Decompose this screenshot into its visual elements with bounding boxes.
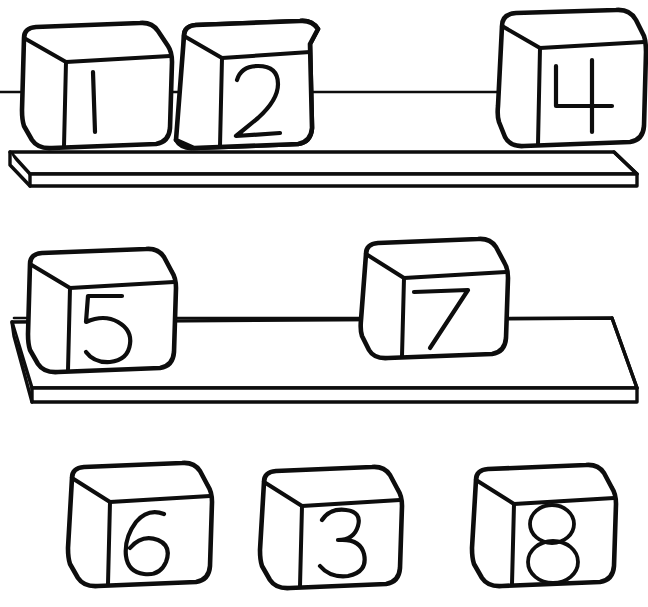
cube-six-vertical-edge	[108, 502, 110, 584]
cube-one[interactable]	[22, 23, 172, 148]
cube-three-vertical-edge	[300, 506, 302, 586]
cube-two[interactable]	[176, 21, 318, 148]
cube-four-vertical-edge	[538, 48, 540, 144]
cube-seven[interactable]	[361, 239, 508, 358]
cube-five-body	[28, 249, 176, 372]
shelf-top-surface	[10, 152, 637, 174]
cube-six[interactable]	[68, 463, 212, 586]
cube-two-vertical-edge	[220, 58, 222, 146]
cube-four-body	[498, 10, 646, 146]
diagram-svg	[0, 0, 648, 607]
cube-eight[interactable]	[472, 465, 616, 586]
cube-four[interactable]	[498, 10, 646, 146]
cube-five-vertical-edge	[68, 288, 70, 370]
shelf-top	[10, 152, 637, 186]
shelf-top-front	[30, 174, 637, 186]
shelf-bottom-front	[32, 388, 637, 402]
cube-diagram-canvas: Numbered cubes on shelves Hand drawn dia…	[0, 0, 648, 607]
cube-six-body	[68, 463, 212, 586]
cube-three[interactable]	[260, 467, 402, 588]
cube-seven-vertical-edge	[402, 278, 404, 356]
cube-eight-body	[472, 465, 616, 586]
cube-one-digit	[93, 72, 95, 132]
cube-three-body	[260, 467, 402, 588]
cube-one-vertical-edge	[64, 62, 66, 146]
cube-eight-vertical-edge	[512, 504, 514, 584]
cube-five[interactable]	[28, 249, 176, 372]
